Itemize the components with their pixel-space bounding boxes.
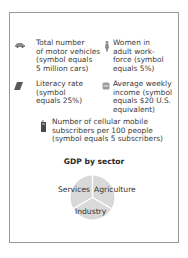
money-icon: [102, 82, 110, 90]
legend-panel: Total number of motor vehicles (symbol e…: [9, 12, 179, 243]
legend-text-literacy: Literacy rate (symbol equals 25%): [36, 80, 83, 106]
pie-label-industry: Industry: [75, 207, 106, 216]
car-icon: [14, 42, 26, 48]
woman-icon: [104, 41, 110, 52]
pie-label-services: Services: [58, 185, 90, 194]
legend-text-women-workforce: Women in adult work- force (symbol equal…: [113, 39, 164, 73]
book-icon: [14, 82, 23, 90]
gdp-title: GDP by sector: [10, 157, 178, 166]
cellphone-icon: [41, 120, 46, 132]
legend-text-cellular: Number of cellular mobile subscribers pe…: [52, 118, 163, 144]
pie-label-agriculture: Agriculture: [94, 185, 136, 194]
legend-text-weekly-income: Average weekly income (symbol equals $20…: [113, 80, 172, 114]
legend-text-motor-vehicles: Total number of motor vehicles (symbol e…: [36, 39, 100, 73]
